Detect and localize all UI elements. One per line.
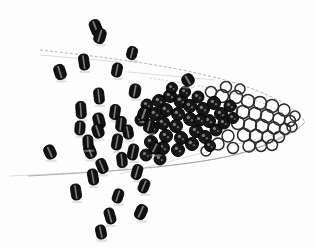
- round-particle: [205, 141, 216, 152]
- round-particle-speckle: [177, 126, 179, 128]
- round-particle-speckle: [147, 155, 149, 157]
- round-particle-speckle: [225, 123, 227, 125]
- rod-particle-shadow: [136, 220, 148, 222]
- rod-particle-shadow: [98, 174, 109, 176]
- round-particle-speckle: [206, 137, 208, 139]
- rod-particle-shadow: [128, 60, 139, 62]
- rod-particle: [75, 121, 86, 136]
- round-particle-highlight: [187, 103, 190, 106]
- round-particle-speckle: [186, 92, 188, 94]
- rod-particle-shadow: [72, 201, 83, 203]
- round-particle-highlight: [163, 107, 166, 110]
- round-particle-speckle: [234, 118, 236, 120]
- round-particle-speckle: [171, 96, 173, 98]
- rod-particle-shadow: [130, 98, 142, 100]
- rod-particle-shadow: [45, 159, 57, 161]
- round-particle: [172, 144, 185, 157]
- round-particle: [160, 130, 173, 143]
- figure-canvas: Particle transition micrograph Rod-shape…: [0, 0, 316, 247]
- round-particle-highlight: [173, 123, 176, 126]
- round-particle: [224, 100, 236, 112]
- round-particle-speckle: [201, 120, 203, 122]
- round-particle-highlight: [187, 116, 190, 119]
- round-particle-speckle: [211, 146, 213, 148]
- round-particle-speckle: [148, 105, 150, 107]
- rod-particle-shadow: [106, 225, 117, 227]
- round-particle-highlight: [163, 133, 166, 136]
- round-particle-speckle: [161, 159, 163, 161]
- rod-particle: [78, 53, 90, 70]
- round-particle-highlight: [175, 111, 178, 114]
- round-particle-speckle: [179, 150, 181, 152]
- round-particle-speckle: [179, 114, 181, 116]
- round-particle-speckle: [173, 88, 175, 90]
- rod-particle-shadow: [182, 86, 195, 88]
- round-particle-highlight: [227, 103, 230, 106]
- round-particle-highlight: [160, 120, 163, 123]
- round-particle-highlight: [178, 135, 181, 138]
- round-particle-speckle: [167, 110, 169, 112]
- round-particle-speckle: [164, 123, 166, 125]
- rod-particle-shadow: [140, 193, 151, 195]
- rod-particle-shadow: [145, 133, 156, 135]
- rod-particle-shadow: [85, 159, 97, 161]
- round-particle-highlight: [195, 94, 198, 97]
- round-particle-highlight: [189, 141, 192, 144]
- round-particle: [192, 91, 204, 103]
- rod-particle: [83, 135, 93, 149]
- rod-particle-shadow: [95, 105, 106, 107]
- round-particle-speckle: [231, 106, 233, 108]
- rod-particle-shadow: [113, 77, 124, 79]
- round-particle-highlight: [169, 85, 172, 88]
- round-particle-speckle: [199, 97, 201, 99]
- round-particle: [167, 83, 178, 94]
- rod-particle-shadow: [150, 154, 162, 156]
- round-particle-speckle: [222, 114, 224, 116]
- rod-particle: [93, 88, 105, 105]
- round-particle-highlight: [175, 147, 178, 150]
- round-particle-highlight: [193, 128, 196, 131]
- rod-particle-shadow: [93, 138, 105, 140]
- rod-particle-shadow: [80, 71, 91, 73]
- round-particle-highlight: [207, 143, 210, 146]
- round-particle-speckle: [210, 121, 212, 123]
- round-particle-speckle: [193, 144, 195, 146]
- round-particle-speckle: [217, 130, 219, 132]
- rod-particle-shadow: [124, 139, 135, 141]
- rod-particle-shadow: [84, 149, 95, 151]
- round-particle-highlight: [202, 134, 205, 137]
- round-particle-highlight: [177, 97, 181, 101]
- round-particle: [194, 114, 206, 126]
- round-particle-speckle: [191, 119, 193, 121]
- rod-particle-shadow: [97, 239, 108, 241]
- round-particle-highlight: [218, 111, 221, 114]
- round-particle-highlight: [230, 115, 233, 118]
- rod-particle-shadow: [55, 80, 67, 82]
- round-particle-speckle: [182, 138, 184, 140]
- round-particle-highlight: [156, 98, 159, 101]
- round-particle: [172, 108, 185, 121]
- round-particle-speckle: [156, 114, 158, 116]
- round-particle-highlight: [152, 111, 155, 114]
- round-particle: [228, 113, 239, 124]
- rod-particle-shadow: [118, 168, 129, 170]
- round-particle-highlight: [182, 89, 185, 92]
- round-particle-speckle: [167, 136, 169, 138]
- round-particle-highlight: [197, 117, 200, 120]
- rod-particle: [116, 152, 128, 168]
- rod-particle-shadow: [129, 161, 140, 163]
- round-particle-highlight: [148, 139, 151, 142]
- round-particle-speckle: [160, 101, 162, 103]
- round-particle-highlight: [144, 102, 147, 105]
- round-particle: [170, 120, 183, 133]
- rod-particle: [70, 183, 82, 200]
- round-particle-highlight: [200, 106, 203, 109]
- round-particle-highlight: [143, 152, 146, 155]
- round-particle-highlight: [211, 100, 214, 103]
- rod-particle-shadow: [95, 44, 107, 46]
- round-particle-speckle: [215, 103, 217, 105]
- round-particle-highlight: [213, 127, 216, 130]
- rod-particle-shadow: [114, 203, 125, 205]
- round-particle-speckle: [197, 131, 199, 133]
- round-particle-speckle: [164, 148, 166, 150]
